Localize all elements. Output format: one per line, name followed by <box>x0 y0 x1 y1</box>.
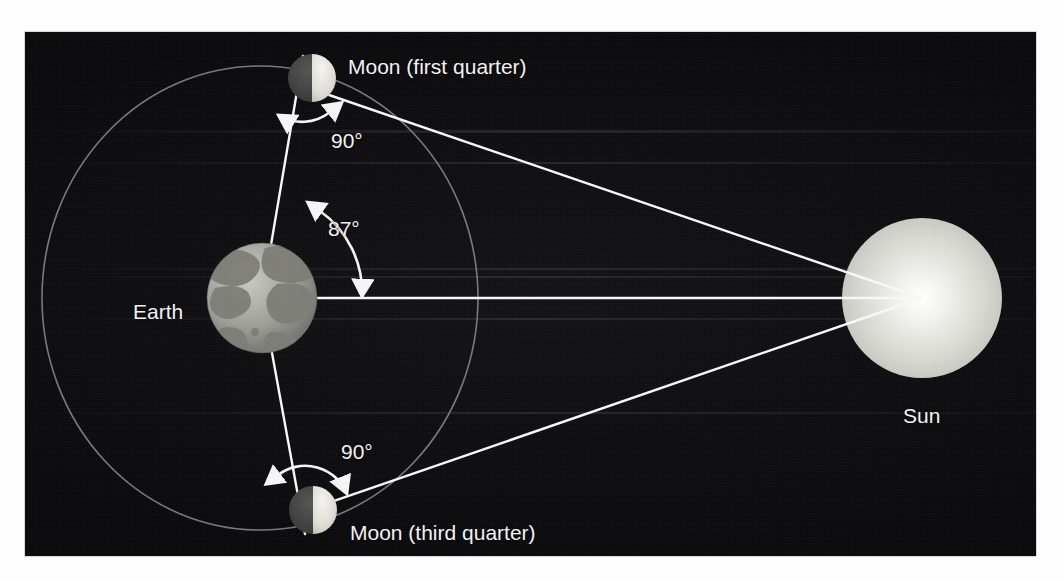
label-angle-earth-vertex: 87° <box>328 218 360 239</box>
label-earth: Earth <box>133 301 183 322</box>
label-sun: Sun <box>903 405 940 426</box>
label-angle-third-quarter: 90° <box>341 441 373 462</box>
label-moon-first-quarter: Moon (first quarter) <box>348 56 527 77</box>
astronomy-diagram: Moon (first quarter) Moon (third quarter… <box>25 32 1036 556</box>
moon-first-quarter-globe <box>288 54 336 102</box>
label-moon-third-quarter: Moon (third quarter) <box>350 522 536 543</box>
earth-globe <box>207 243 323 365</box>
diagram-canvas <box>25 32 1036 556</box>
label-angle-first-quarter: 90° <box>331 130 363 151</box>
angle-arc-first-quarter <box>278 112 330 122</box>
line-first-quarter-moon-to-sun <box>297 84 922 298</box>
moon-third-quarter-globe <box>289 486 337 534</box>
line-third-quarter-moon-to-sun <box>299 298 922 513</box>
figure-stage: Moon (first quarter) Moon (third quarter… <box>0 0 1064 581</box>
